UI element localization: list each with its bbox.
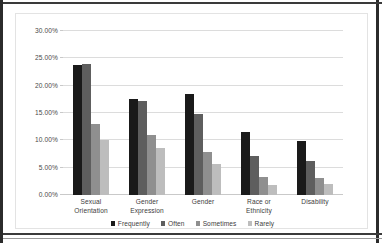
frame-bottom-rule-secondary [3, 238, 382, 239]
legend-label: Rarely [255, 220, 275, 227]
bar[interactable] [241, 132, 250, 195]
bar[interactable] [324, 184, 333, 195]
category-label-line: Sexual [66, 197, 116, 206]
y-axis-tick-label: 20.00% [35, 81, 58, 88]
bar[interactable] [306, 161, 315, 195]
plot-area: 0.00%5.00%10.00%15.00%20.00%25.00%30.00% [63, 31, 343, 195]
legend-label: Often [168, 220, 185, 227]
y-axis-tick-label: 5.00% [39, 163, 58, 170]
legend-item[interactable]: Sometimes [196, 220, 237, 227]
category-label-line: Expression [122, 206, 172, 215]
y-axis-tick-label: 25.00% [35, 54, 58, 61]
bar-groups [63, 31, 343, 195]
legend-swatch-icon [161, 221, 166, 226]
category-label-line: Gender [178, 197, 228, 206]
bar[interactable] [100, 140, 109, 195]
legend-swatch-icon [248, 221, 253, 226]
bar[interactable] [138, 101, 147, 195]
bar[interactable] [156, 148, 165, 195]
category-label-line: Disability [290, 197, 340, 206]
category-label-line: Orientation [66, 206, 116, 215]
bar[interactable] [73, 65, 82, 195]
chart-container: 0.00%5.00%10.00%15.00%20.00%25.00%30.00%… [15, 13, 368, 229]
bar-group [290, 31, 340, 195]
bar[interactable] [147, 135, 156, 195]
bar[interactable] [185, 94, 194, 195]
bar[interactable] [212, 164, 221, 195]
legend-item[interactable]: Often [161, 220, 185, 227]
bar[interactable] [297, 141, 306, 195]
legend-item[interactable]: Rarely [248, 220, 275, 227]
y-axis-tick-label: 0.00% [39, 191, 58, 198]
bar[interactable] [91, 124, 100, 195]
bar[interactable] [82, 64, 91, 195]
legend-label: Frequently [118, 220, 150, 227]
bar[interactable] [129, 99, 138, 195]
bar[interactable] [259, 177, 268, 195]
legend-item[interactable]: Frequently [111, 220, 150, 227]
legend-swatch-icon [111, 221, 116, 226]
bar[interactable] [203, 152, 212, 195]
bar[interactable] [315, 178, 324, 195]
bar[interactable] [194, 114, 203, 195]
bar-group [122, 31, 172, 195]
bar-group [234, 31, 284, 195]
category-label-line: Gender [122, 197, 172, 206]
y-axis-tick-label: 30.00% [35, 27, 58, 34]
y-axis-tick-label: 15.00% [35, 109, 58, 116]
bar-group [178, 31, 228, 195]
frame-top-rule [3, 2, 382, 4]
bar[interactable] [250, 156, 259, 195]
y-axis-tick-label: 10.00% [35, 136, 58, 143]
category-label-line: Race or Ethnicity [234, 197, 284, 215]
bar[interactable] [268, 185, 277, 195]
chart-legend: FrequentlyOftenSometimesRarely [16, 220, 369, 227]
legend-label: Sometimes [203, 220, 237, 227]
frame-bottom-rule [3, 233, 382, 235]
bar-group [66, 31, 116, 195]
legend-swatch-icon [196, 221, 201, 226]
